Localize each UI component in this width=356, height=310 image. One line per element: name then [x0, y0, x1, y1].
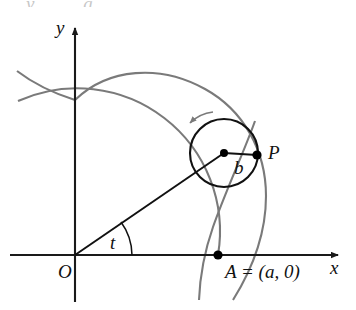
- angle-t-label: t: [110, 233, 115, 252]
- trochoid-left-branch: [17, 71, 75, 100]
- diagram-canvas: [0, 0, 356, 310]
- origin-label: O: [58, 262, 72, 281]
- segment-b-center-to-p: [224, 153, 257, 155]
- figure-container: y a: [0, 0, 356, 310]
- point-p-dot: [252, 150, 261, 159]
- radius-ray-from-origin: [75, 153, 224, 255]
- y-axis-label: y: [56, 18, 64, 37]
- point-a-label: A = (a, 0): [225, 262, 300, 281]
- point-p-label: P: [268, 143, 280, 162]
- radius-b-label: b: [234, 158, 244, 177]
- point-a-dot: [213, 250, 222, 259]
- angle-arc-t: [121, 222, 132, 255]
- circle-center-point: [220, 149, 228, 157]
- x-axis-label: x: [330, 258, 338, 277]
- outer-guide-arc: [18, 88, 220, 255]
